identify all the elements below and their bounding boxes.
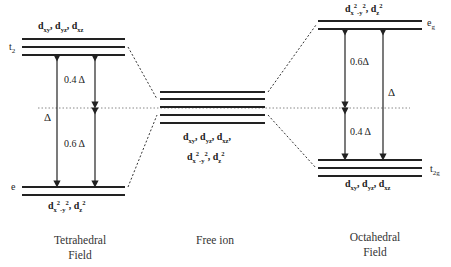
tetrahedral-e-label: e — [11, 181, 15, 192]
tetrahedral-gap-lower: 0.6 Δ — [64, 138, 85, 149]
octahedral-eg-levels — [318, 21, 422, 29]
octahedral-eg-orbitals: dx2-y2, dz2 — [345, 2, 382, 16]
octahedral-caption: Octahedral Field — [325, 230, 425, 260]
free-ion-levels — [160, 92, 265, 123]
free-ion-orbitals-line1: dxy, dyz, dxz, — [183, 131, 231, 144]
tetrahedral-e-orbitals: dx2-y2, dz2 — [48, 199, 85, 213]
free-ion-caption: Free ion — [175, 233, 255, 248]
octahedral-arrows — [345, 32, 383, 157]
free-ion-orbitals-line2: dx2-y2, dz2 — [187, 150, 224, 164]
octahedral-t2g-orbitals: dxy, dyz, dxz — [345, 178, 390, 191]
octahedral-t2g-label: t2g — [430, 163, 440, 177]
tetrahedral-t2-orbitals: dxy, dyz, dxz — [38, 20, 83, 33]
tetrahedral-t2-levels — [22, 39, 125, 55]
tetrahedral-t2-label: t2 — [9, 41, 15, 55]
octahedral-gap-upper: 0.6Δ — [350, 56, 369, 67]
tetrahedral-gap-upper: 0.4 Δ — [64, 74, 85, 85]
octahedral-total-delta: Δ — [388, 86, 395, 98]
tetrahedral-e-levels — [22, 187, 125, 195]
tetrahedral-caption: Tetrahedral Field — [30, 233, 130, 263]
octahedral-t2g-levels — [318, 160, 422, 176]
octahedral-gap-lower: 0.4 Δ — [350, 126, 371, 137]
octahedral-eg-label: eg — [427, 17, 435, 31]
tetrahedral-total-delta: Δ — [44, 111, 51, 123]
